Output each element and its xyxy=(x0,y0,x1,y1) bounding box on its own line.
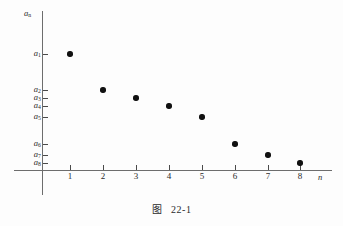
x-tick-label: 4 xyxy=(159,172,179,181)
y-tick-label: a1 xyxy=(0,49,41,59)
y-tick-label-subscript: 1 xyxy=(38,52,41,58)
y-tick-label-subscript: 4 xyxy=(38,104,41,110)
y-tick-mark xyxy=(43,54,48,55)
x-tick-label: 2 xyxy=(93,172,113,181)
y-tick-label-subscript: 8 xyxy=(38,161,41,167)
y-tick-mark xyxy=(43,98,48,99)
x-tick-mark xyxy=(169,165,170,170)
figure-caption: 图22-1 xyxy=(0,201,343,216)
x-tick-mark xyxy=(70,165,71,170)
y-tick-label-text: a6 xyxy=(34,139,41,148)
data-point xyxy=(297,160,302,165)
y-axis-line xyxy=(42,11,43,195)
y-tick-label-text: a5 xyxy=(34,112,41,121)
y-tick-label-subscript: 6 xyxy=(38,142,41,148)
data-point xyxy=(67,51,72,56)
data-point xyxy=(133,95,138,100)
y-tick-mark xyxy=(43,144,48,145)
data-point xyxy=(232,141,237,146)
x-axis-title: n xyxy=(318,173,322,182)
data-point xyxy=(199,114,204,119)
figure-container: an n a1a2a3a4a5a6a7a8 12345678 图22-1 xyxy=(0,0,343,226)
x-tick-label: 5 xyxy=(192,172,212,181)
x-tick-mark xyxy=(136,165,137,170)
y-tick-label: a5 xyxy=(0,112,41,122)
y-tick-mark xyxy=(43,117,48,118)
x-tick-label: 1 xyxy=(60,172,80,181)
data-point xyxy=(100,87,105,92)
caption-number: 22-1 xyxy=(171,204,191,215)
y-tick-label-subscript: 5 xyxy=(38,115,41,121)
x-tick-mark xyxy=(202,165,203,170)
y-tick-mark xyxy=(43,163,48,164)
x-tick-label: 3 xyxy=(126,172,146,181)
y-tick-label-text: a1 xyxy=(34,49,41,58)
scatter-plot: an n a1a2a3a4a5a6a7a8 12345678 xyxy=(0,0,343,226)
y-tick-mark xyxy=(43,106,48,107)
y-axis-title-subscript: n xyxy=(28,12,31,18)
data-point xyxy=(166,103,171,108)
y-tick-mark xyxy=(43,155,48,156)
y-tick-label-text: a4 xyxy=(34,101,41,110)
y-tick-label: a8 xyxy=(0,158,41,168)
caption-label: 图 xyxy=(152,204,163,215)
x-tick-mark xyxy=(235,165,236,170)
y-axis-title: an xyxy=(24,9,31,18)
y-tick-mark xyxy=(43,90,48,91)
x-tick-mark xyxy=(268,165,269,170)
y-tick-label: a6 xyxy=(0,139,41,149)
y-tick-label-text: a8 xyxy=(34,158,41,167)
x-tick-label: 8 xyxy=(290,172,310,181)
x-tick-label: 6 xyxy=(225,172,245,181)
x-tick-mark xyxy=(103,165,104,170)
data-point xyxy=(265,152,270,157)
y-tick-label: a4 xyxy=(0,101,41,111)
x-tick-mark xyxy=(300,165,301,170)
x-tick-label: 7 xyxy=(258,172,278,181)
